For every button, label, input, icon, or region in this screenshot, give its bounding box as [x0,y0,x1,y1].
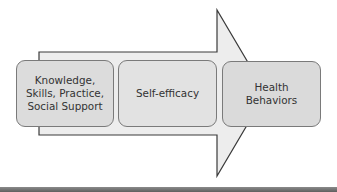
box-knowledge-skills-label: Knowledge, Skills, Practice, Social Supp… [26,74,104,113]
box-self-efficacy-label: Self-efficacy [136,87,199,100]
process-diagram: Knowledge, Skills, Practice, Social Supp… [0,0,337,192]
box-knowledge-skills: Knowledge, Skills, Practice, Social Supp… [16,60,114,127]
bottom-border-bar [0,187,337,192]
box-self-efficacy: Self-efficacy [118,60,217,127]
box-health-behaviors-label: Health Behaviors [246,81,298,107]
box-health-behaviors: Health Behaviors [222,61,321,127]
